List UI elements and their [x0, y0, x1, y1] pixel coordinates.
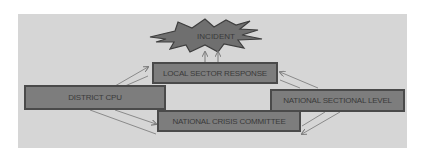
local-sector-response-label: LOCAL SECTOR RESPONSE	[163, 69, 267, 78]
local-sector-response-box: LOCAL SECTOR RESPONSE	[152, 62, 278, 84]
national-crisis-committee-box: NATIONAL CRISIS COMMITTEE	[157, 110, 301, 132]
national-sectional-level-box: NATIONAL SECTIONAL LEVEL	[270, 89, 405, 112]
national-sectional-level-label: NATIONAL SECTIONAL LEVEL	[283, 96, 392, 105]
district-cpu-label: DISTRICT CPU	[68, 93, 121, 102]
district-cpu-box: DISTRICT CPU	[24, 85, 166, 110]
national-crisis-committee-label: NATIONAL CRISIS COMMITTEE	[172, 117, 285, 126]
incident-label: INCIDENT	[186, 32, 246, 41]
